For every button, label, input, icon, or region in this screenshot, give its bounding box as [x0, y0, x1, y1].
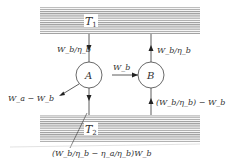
engine-a: A: [76, 62, 102, 88]
arrow-icon: [59, 92, 65, 97]
svg-text:W_b: W_b: [113, 63, 130, 72]
flow-a-to-b-work: W_b: [112, 63, 138, 78]
cold-reservoir: T2: [40, 115, 200, 142]
arrow-up-icon: [149, 45, 154, 51]
arrow-up-icon: [149, 98, 154, 104]
flow-a-work-out: W_a − W_b: [8, 84, 79, 103]
engine-b: B: [138, 62, 164, 88]
engine-diagram: T1 T2 A B W_b/η_b W_a − W_b (W_b/η_b − η…: [0, 0, 228, 163]
flow-hot-to-a: W_b/η_b: [57, 34, 92, 62]
svg-text:(W_b/η_b) − W_b: (W_b/η_b) − W_b: [156, 98, 225, 107]
arrow-down-icon: [87, 95, 92, 101]
flow-b-to-hot: W_b/η_b: [149, 34, 191, 62]
hot-reservoir: T1: [40, 7, 200, 34]
divider: [10, 144, 200, 147]
flow-cold-to-b: (W_b/η_b) − W_b: [149, 88, 226, 115]
svg-text:W_b/η_b: W_b/η_b: [157, 46, 191, 55]
svg-text:(W_b/η_b − η_a/η_b)W_b: (W_b/η_b − η_a/η_b)W_b: [52, 149, 152, 158]
arrow-right-icon: [132, 73, 138, 78]
svg-text:W_a − W_b: W_a − W_b: [8, 94, 54, 103]
engine-b-label: B: [146, 70, 154, 81]
svg-text:W_b/η_b: W_b/η_b: [57, 45, 91, 54]
engine-a-label: A: [84, 70, 92, 81]
